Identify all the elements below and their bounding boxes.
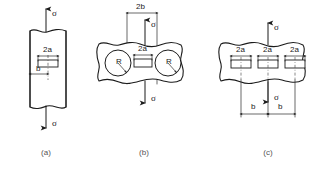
panel-a-bottom-stress-label: σ xyxy=(52,118,57,128)
panel-a-bottom-stress: σ xyxy=(46,106,57,128)
panel-c-caption: (c) xyxy=(263,148,273,157)
panel-a-top-stress-label: σ xyxy=(52,8,57,18)
panel-b-dim-2a-label: 2a xyxy=(138,44,147,53)
panel-c-bottom-stress: σ xyxy=(268,80,279,102)
panel-b-caption: (b) xyxy=(139,148,149,157)
panel-c-dim-b: b b xyxy=(241,79,295,117)
figure-root: σ 2a b xyxy=(0,0,321,171)
panel-c-dim-b-right-label: b xyxy=(278,102,283,111)
panel-a: σ 2a b xyxy=(30,8,66,157)
panel-b: 2b σ R R xyxy=(97,2,184,157)
panel-b-top-stress: σ xyxy=(145,19,156,45)
panel-b-top-stress-label: σ xyxy=(151,19,156,29)
panel-c-bottom-stress-label: σ xyxy=(274,92,279,102)
panel-c-dim-2a-center-label: 2a xyxy=(263,45,272,54)
panel-a-dim-b-label: b xyxy=(36,64,41,73)
panel-b-radius-right-label: R xyxy=(166,57,172,66)
panel-b-bottom-stress: σ xyxy=(145,81,156,103)
panel-a-caption: (a) xyxy=(41,148,51,157)
panel-c: σ 2a 2a xyxy=(219,22,306,157)
panel-a-dim-2a-label: 2a xyxy=(43,45,52,54)
panel-c-dim-b-left-label: b xyxy=(251,102,256,111)
panel-c-top-stress-label: σ xyxy=(274,22,279,32)
panel-b-crack xyxy=(134,59,152,67)
panel-b-bottom-stress-label: σ xyxy=(151,93,156,103)
panel-a-top-stress: σ xyxy=(46,8,57,32)
panel-b-radius-left-label: R xyxy=(116,57,122,66)
panel-b-dim-2b-label: 2b xyxy=(136,2,145,11)
panel-c-top-stress: σ xyxy=(268,22,279,45)
panel-c-dim-2a-left-label: 2a xyxy=(236,45,245,54)
fracture-mechanics-figure: σ 2a b xyxy=(0,0,321,171)
panel-c-dim-2a-right-label: 2a xyxy=(290,45,299,54)
